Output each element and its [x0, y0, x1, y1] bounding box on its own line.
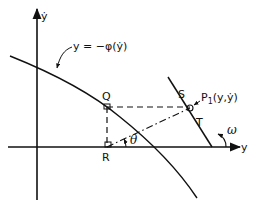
omega-arc — [218, 134, 226, 147]
point-p1-label: P1(y,ẏ) — [201, 91, 238, 106]
curve-label: y = −φ(ẏ) — [73, 40, 127, 53]
theta-label: θ — [130, 133, 138, 147]
point-q-label: Q — [102, 90, 111, 103]
phase-plane-diagram: ẏ y y = −φ(ẏ) Q R S T P1(y,ẏ) θ ω — [0, 0, 254, 205]
omega-label: ω — [227, 123, 237, 137]
point-t-label: T — [195, 116, 203, 129]
theta-arc — [124, 139, 126, 147]
p1-label-leader — [194, 101, 200, 105]
vertical-axis-label: ẏ — [41, 10, 48, 23]
line-s-t — [168, 77, 212, 147]
horizontal-axis-label: y — [241, 141, 248, 154]
point-r-label: R — [102, 151, 110, 164]
curve-label-leader — [57, 47, 72, 68]
point-s-label: S — [178, 88, 185, 101]
